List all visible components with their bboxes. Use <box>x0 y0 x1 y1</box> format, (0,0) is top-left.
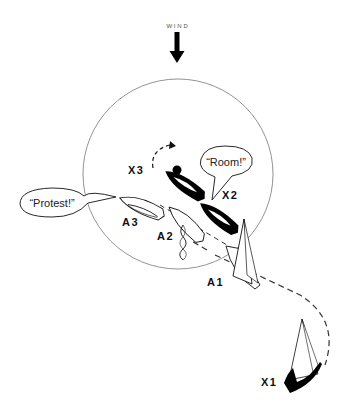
label-x2: X2 <box>222 189 238 201</box>
wind-arrow-icon <box>170 32 185 63</box>
x3-turn-arrow-icon <box>153 141 176 168</box>
label-a1: A1 <box>207 276 224 288</box>
speech-protest-text: “Protest!” <box>29 197 75 209</box>
boat-x1 <box>284 319 322 393</box>
speech-room-text: “Room!” <box>206 156 246 168</box>
label-x1: X1 <box>261 376 277 388</box>
label-a2: A2 <box>157 230 174 242</box>
sailing-rules-diagram: WIND <box>0 0 353 415</box>
label-a3: A3 <box>122 216 139 228</box>
boat-x3 <box>161 165 209 204</box>
wind-label: WIND <box>166 23 189 29</box>
label-x3: X3 <box>128 164 144 176</box>
speech-bubble-protest: “Protest!” <box>20 188 116 217</box>
